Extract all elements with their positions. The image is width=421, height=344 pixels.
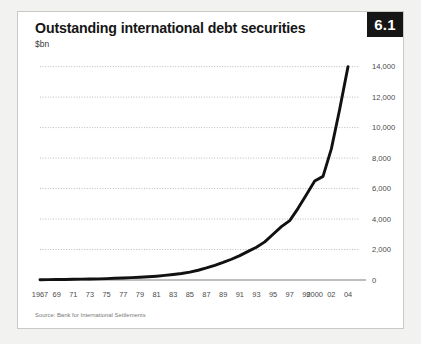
x-tick-label: 81 xyxy=(152,290,160,299)
x-tick-label: 71 xyxy=(69,290,77,299)
y-tick-label: 6,000 xyxy=(372,184,391,193)
chart-page: 6.1 Outstanding international debt secur… xyxy=(0,0,421,344)
x-tick-label: 02 xyxy=(327,290,335,299)
y-tick-label: 2,000 xyxy=(372,245,391,254)
y-tick-label: 0 xyxy=(372,276,376,285)
x-tick-label: 91 xyxy=(236,290,244,299)
x-tick-label: 75 xyxy=(102,290,110,299)
x-tick-label: 77 xyxy=(119,290,127,299)
x-tick-label: 1967 xyxy=(32,290,48,299)
x-tick-label: 73 xyxy=(86,290,94,299)
y-tick-label: 12,000 xyxy=(372,93,395,102)
y-tick-label: 14,000 xyxy=(372,62,395,71)
y-tick-label: 8,000 xyxy=(372,154,391,163)
x-tick-label: 85 xyxy=(186,290,194,299)
x-tick-label: 83 xyxy=(169,290,177,299)
y-tick-label: 4,000 xyxy=(372,215,391,224)
plot-area: 02,0004,0006,0008,00010,00012,00014,0001… xyxy=(18,12,405,330)
x-tick-label: 95 xyxy=(269,290,277,299)
chart-card: 6.1 Outstanding international debt secur… xyxy=(17,11,404,329)
x-tick-label: 2000 xyxy=(306,290,322,299)
y-tick-label: 10,000 xyxy=(372,123,395,132)
data-line xyxy=(40,67,348,280)
x-tick-label: 79 xyxy=(136,290,144,299)
line-chart-svg: 02,0004,0006,0008,00010,00012,00014,0001… xyxy=(18,12,405,330)
x-tick-label: 93 xyxy=(252,290,260,299)
x-tick-label: 87 xyxy=(202,290,210,299)
x-tick-label: 97 xyxy=(286,290,294,299)
source-note: Source: Bank for International Settlemen… xyxy=(35,312,146,318)
x-tick-label: 04 xyxy=(344,290,352,299)
x-tick-label: 69 xyxy=(53,290,61,299)
x-tick-label: 89 xyxy=(219,290,227,299)
